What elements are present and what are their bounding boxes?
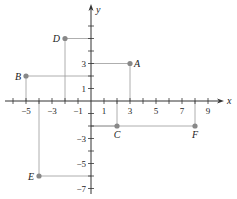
x-tick-label: −1 — [73, 106, 83, 116]
x-tick-label: 9 — [206, 106, 211, 116]
point-E-label: E — [27, 171, 34, 182]
y-tick-label: 3 — [82, 59, 87, 69]
y-tick-label: −7 — [76, 184, 86, 194]
point-F-dot — [192, 123, 197, 128]
y-tick-label: 1 — [82, 84, 87, 94]
point-D-dot — [62, 36, 67, 41]
point-A-dot — [127, 61, 132, 66]
coordinate-plane: x y −5−3−11357931−3−5−7 ABCDEF — [0, 0, 237, 199]
point-B-label: B — [15, 71, 21, 82]
x-tick-label: 5 — [154, 106, 159, 116]
y-axis-label: y — [95, 4, 101, 15]
x-axis-label: x — [226, 95, 232, 106]
point-C-label: C — [114, 129, 121, 140]
x-tick-label: 7 — [180, 106, 185, 116]
point-A-label: A — [133, 58, 141, 69]
point-F-label: F — [191, 129, 199, 140]
y-tick-label: −5 — [76, 159, 86, 169]
x-tick-label: 1 — [102, 106, 107, 116]
x-tick-label: −5 — [21, 106, 31, 116]
tick-marks — [13, 26, 208, 189]
points: ABCDEF — [15, 33, 199, 182]
point-D-label: D — [52, 33, 61, 44]
x-tick-label: −3 — [47, 106, 57, 116]
y-tick-label: −3 — [76, 134, 86, 144]
point-E-dot — [36, 173, 41, 178]
point-C-dot — [114, 123, 119, 128]
point-B-dot — [23, 73, 28, 78]
x-tick-label: 3 — [128, 106, 133, 116]
